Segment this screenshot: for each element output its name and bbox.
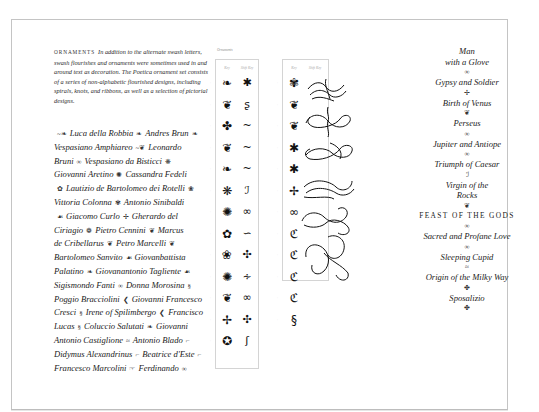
person-name: Petro Marcelli [116, 238, 166, 248]
ornament-glyph-key: ❧ [218, 77, 236, 89]
person-name: Lautizio de Bartolomeo dei Rotelli [66, 183, 185, 193]
names-line: ~❧Luca della Robbia❧Andres Brun❧ [54, 127, 212, 141]
ornament-icon: § [79, 309, 83, 317]
ornament-icon: ☙ [57, 213, 63, 221]
person-name: Cassandra Fedeli [125, 169, 186, 179]
flourish-icon: ∞ [412, 67, 522, 77]
ornament-icon: ❧ [192, 130, 198, 138]
flourish-icon: ❦ [412, 201, 522, 211]
names-line: Sigismondo Fanti∞Donna Morosina§ [54, 279, 212, 293]
names-line: Palatino❧Giovanantonio Tagliente☙ [54, 265, 212, 279]
col-header-shift-key: Shift Key [238, 66, 256, 70]
row-marker: · [210, 318, 211, 322]
names-line: ☙Giacomo Curlo✢Gherardo del [54, 210, 212, 224]
intro-paragraph: ORNAMENTSIn addition to the alternate sw… [54, 47, 208, 105]
person-name: Beatrice d'Este [142, 349, 194, 359]
ornament-icon: ~❦ [136, 144, 146, 152]
artwork-title: Birth of Venus [412, 98, 522, 109]
row-marker: · [210, 210, 211, 214]
ornament-icon: § [188, 282, 192, 290]
ornament-icon: ⌐ [135, 351, 139, 359]
person-name: Vespasiano da Bisticci [85, 156, 162, 166]
artwork-title: with a Glove [412, 57, 522, 68]
ornament-glyph-shift-key: ʂ [238, 99, 256, 110]
names-line: Giovanni Aretino✺Cassandra Fedeli [54, 168, 212, 182]
person-name: Luca della Robbia [70, 128, 134, 138]
names-block: ~❧Luca della Robbia❧Andres Brun❧Vespasia… [54, 127, 212, 375]
ornament-icon: ❋ [165, 158, 171, 166]
row-marker: · [277, 210, 278, 214]
person-name: Antonio Blado [133, 335, 183, 345]
ornament-icon: ✾ [115, 199, 121, 207]
ornament-icon: ∞ [118, 282, 123, 290]
row-marker: · [277, 232, 278, 236]
person-name: Lucas [54, 321, 75, 331]
person-name: Ferdinando [138, 363, 178, 373]
names-line: de Cribellarus❦Petro Marcelli❦ [54, 237, 212, 251]
col-header-key: Key [219, 66, 235, 70]
person-name: Giovanni Francesco [132, 294, 202, 304]
row-marker: · [277, 275, 278, 279]
ornament-glyph-shift-key: ~ [238, 142, 256, 153]
flourish-icon: ✤ [412, 283, 522, 293]
person-name: Giovanantonio Tagliente [96, 266, 181, 276]
ornament-glyph-shift-key: ℐ [238, 185, 256, 196]
ornament-icon: ❀ [188, 185, 194, 193]
person-name: Vespasiano Amphiareo [54, 142, 133, 152]
ornament-icon: ❮ [123, 296, 129, 304]
row-marker: · [277, 146, 278, 150]
intro-body: In addition to the alternate swash lette… [54, 48, 208, 104]
row-marker: · [210, 124, 211, 128]
section-heading: ORNAMENTS [54, 49, 95, 55]
names-line: Didymus Alexandrinus⌐Beatrice d'Este⌐ [54, 348, 212, 362]
names-line: Bruni∞Vespasiano da Bisticci❋ [54, 155, 212, 169]
ornament-icon: ☙ [184, 268, 190, 276]
person-name: Irene of Spilimbergo [86, 307, 157, 317]
person-name: Giovanbattista [135, 252, 186, 262]
row-marker: · [210, 146, 211, 150]
person-name: Didymus Alexandrinus [54, 349, 132, 359]
names-line: Bartolomeo Sanvito☙Giovanbattista [54, 251, 212, 265]
ornament-glyph-shift-key: ∻ [238, 271, 256, 282]
ornament-icon: ☙ [126, 254, 132, 262]
ornament-icon: ❦ [149, 227, 155, 235]
ornament-icon: ❮ [159, 309, 165, 317]
ornament-icon: ✿ [57, 185, 63, 193]
person-name: Bruni [54, 156, 74, 166]
person-name: Sigismondo Fanti [54, 280, 115, 290]
ornament-icon: ☞ [129, 365, 135, 373]
row-marker: · [210, 81, 211, 85]
ornament-icon: ❁ [86, 227, 92, 235]
ornament-icon: ❦ [107, 240, 113, 248]
person-name: Francisco [168, 307, 203, 317]
ornament-icon: ❧ [87, 268, 93, 276]
artwork-title: Rocks [412, 190, 522, 201]
flourish-icon: ∞ [412, 129, 522, 139]
ornament-glyph-shift-key: ~ [238, 120, 256, 131]
ornament-icon: ⌐ [186, 337, 190, 345]
row-marker: · [210, 167, 211, 171]
person-name: de Cribellarus [54, 238, 104, 248]
ornament-icon: ∞ [182, 365, 187, 373]
ornament-glyph-key: ❀ [218, 249, 236, 261]
ornaments-table-caption: Ornaments [217, 48, 233, 52]
flourish-ornaments-column [300, 77, 358, 287]
ornament-icon: ✺ [116, 171, 122, 179]
person-name: Vittoria Colonna [54, 197, 112, 207]
ornament-icon: § [78, 323, 82, 331]
person-name: Giacomo Curlo [66, 211, 120, 221]
artwork-title: Triumph of Caesar [412, 159, 522, 170]
flourish-icon: ∞ [412, 149, 522, 159]
person-name: Antonio Castiglione [54, 335, 123, 345]
flourish-icon: ∞ [412, 242, 522, 252]
person-name: Cresci [54, 307, 76, 317]
ornament-glyph-shift-key: ✣ [238, 249, 256, 260]
ornament-icon: ✢ [123, 213, 129, 221]
ornament-glyph-key: ✪ [218, 335, 236, 347]
flourish-icon: ✤ [412, 303, 522, 313]
ornament-glyph-key: ✺ [218, 271, 236, 283]
artwork-title: Perseus [412, 118, 522, 129]
row-marker: · [210, 189, 211, 193]
names-line: Vespasiano Amphiareo~❦Leonardo [54, 141, 212, 155]
row-marker: · [210, 339, 211, 343]
